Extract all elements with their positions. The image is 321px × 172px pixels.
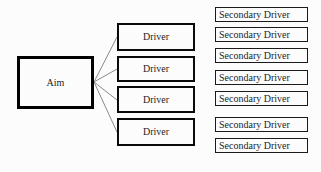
driver-node-label: Driver [143,64,169,74]
secondary-driver-node-label: Secondary Driver [219,30,290,40]
secondary-driver-node-4: Secondary Driver [215,70,308,85]
secondary-driver-node-label: Secondary Driver [219,10,290,20]
secondary-driver-node-1: Secondary Driver [215,7,308,22]
driver-node-label: Driver [143,32,169,42]
connector-line-aim-driver3 [94,82,117,100]
aim-node: Aim [17,56,94,109]
driver-diagram: Aim Driver Driver Driver Driver Secondar… [0,0,321,172]
secondary-driver-node-label: Secondary Driver [219,51,290,61]
driver-node-label: Driver [143,127,169,137]
secondary-driver-node-3: Secondary Driver [215,48,308,63]
driver-node-3: Driver [117,86,195,113]
driver-node-2: Driver [117,56,195,82]
secondary-driver-node-5: Secondary Driver [215,91,308,106]
secondary-driver-node-2: Secondary Driver [215,27,308,42]
driver-node-1: Driver [117,23,195,51]
secondary-driver-node-6: Secondary Driver [215,117,308,132]
secondary-driver-node-label: Secondary Driver [219,120,290,130]
aim-node-label: Aim [47,78,65,88]
secondary-driver-node-label: Secondary Driver [219,94,290,104]
secondary-driver-node-7: Secondary Driver [215,138,308,153]
secondary-driver-node-label: Secondary Driver [219,141,290,151]
driver-node-label: Driver [143,95,169,105]
driver-node-4: Driver [117,118,195,146]
connector-line-aim-driver4 [94,82,117,132]
secondary-driver-node-label: Secondary Driver [219,73,290,83]
